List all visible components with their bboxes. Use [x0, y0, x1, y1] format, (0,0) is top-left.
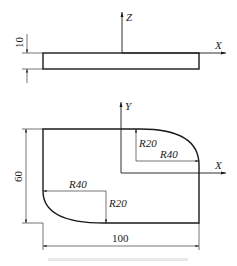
technical-drawing: Z X 10 Y X R20 R40 R40 R20 60 — [0, 0, 237, 266]
top-view: Z X 10 — [13, 11, 226, 83]
plan-view: Y X R20 R40 R40 R20 60 100 — [12, 100, 226, 250]
bottom-left-r40-label: R40 — [68, 178, 87, 190]
y-axis-label: Y — [125, 100, 133, 112]
top-right-r20-label: R20 — [138, 137, 157, 149]
x-axis-label-top: X — [214, 39, 223, 51]
plate-side-outline — [43, 53, 199, 69]
top-right-r40-label: R40 — [159, 148, 178, 160]
thickness-dimension: 10 — [13, 37, 25, 49]
height-dimension: 60 — [12, 171, 24, 183]
x-axis-label-plan: X — [214, 159, 223, 171]
width-dimension: 100 — [112, 232, 129, 244]
bottom-left-r20-label: R20 — [108, 197, 127, 209]
figure-caption — [48, 258, 188, 261]
z-axis-label: Z — [126, 11, 133, 23]
